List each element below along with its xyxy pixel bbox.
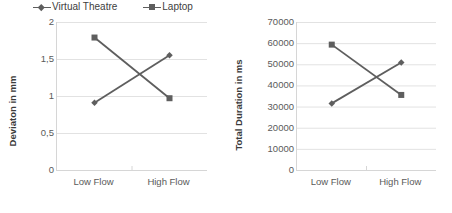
square-marker-icon (329, 42, 335, 48)
square-marker-icon (92, 35, 98, 41)
x-axis-label: Low Flow (56, 174, 131, 190)
y-tick-label: 0,5 (41, 128, 54, 138)
y-tick-label: 0 (289, 165, 294, 175)
chart-duration: Total Duration in ms 7000060000500004000… (226, 22, 452, 213)
y-tick-label: 40000 (268, 81, 294, 91)
x-axis-labels-deviation: Low FlowHigh Flow (56, 174, 206, 190)
plot-area-deviation (56, 22, 207, 171)
x-axis-labels-duration: Low FlowHigh Flow (296, 174, 435, 190)
y-axis-ticks-deviation: 21,510,50 (12, 22, 56, 170)
y-tick-label: 0 (49, 165, 54, 175)
diamond-marker-icon (33, 2, 51, 12)
series-line (95, 38, 170, 99)
y-tick-label: 20000 (268, 123, 294, 133)
y-tick-label: 1 (49, 91, 54, 101)
x-axis-label: High Flow (366, 174, 436, 190)
y-tick-label: 10000 (268, 144, 294, 154)
y-axis-ticks-duration: 700006000050000400003000020000100000 (234, 22, 296, 170)
series-line (332, 45, 402, 95)
x-axis-label: Low Flow (296, 174, 366, 190)
y-tick-label: 2 (49, 17, 54, 27)
square-marker-icon (167, 95, 173, 101)
series-line (95, 55, 170, 102)
legend-item-laptop: Laptop (143, 2, 193, 12)
legend-label-laptop: Laptop (162, 2, 193, 12)
plot-svg-deviation (57, 22, 207, 170)
square-marker-icon (143, 2, 161, 12)
y-tick-label: 60000 (268, 38, 294, 48)
x-axis-label: High Flow (131, 174, 206, 190)
chart-legend: Virtual Theatre Laptop (0, 2, 226, 12)
legend-item-virtual-theatre: Virtual Theatre (33, 2, 117, 12)
legend-label-virtual-theatre: Virtual Theatre (52, 2, 117, 12)
plot-svg-duration (297, 22, 436, 170)
y-tick-label: 1,5 (41, 54, 54, 64)
y-tick-label: 30000 (268, 102, 294, 112)
plot-area-duration (296, 22, 436, 171)
y-tick-label: 70000 (268, 17, 294, 27)
figure-root: Virtual Theatre Laptop Deviaton in mm 21… (0, 0, 452, 213)
square-marker-icon (398, 92, 404, 98)
y-tick-label: 50000 (268, 60, 294, 70)
chart-deviation: Deviaton in mm 21,510,50 Low FlowHigh Fl… (0, 22, 226, 213)
